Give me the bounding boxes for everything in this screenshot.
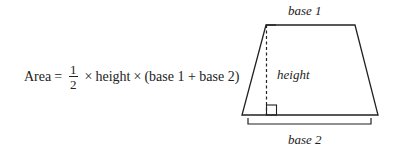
trapezoid-shape <box>242 25 378 115</box>
label-base1: base 1 <box>288 3 322 18</box>
base2-bracket <box>248 118 371 124</box>
trapezoid-diagram: base 1 height base 2 <box>0 0 399 151</box>
right-angle-marker <box>267 105 277 115</box>
label-height: height <box>277 67 310 82</box>
label-base2: base 2 <box>288 132 322 147</box>
